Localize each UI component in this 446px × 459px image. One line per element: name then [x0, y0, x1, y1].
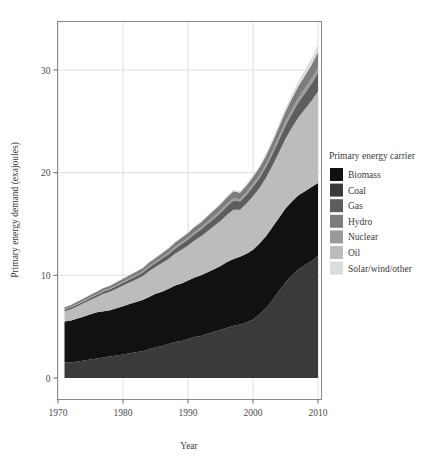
x-tick-label-1990: 1990 [179, 408, 198, 418]
legend-swatch-oil[interactable] [330, 246, 343, 259]
y-tick-label-30: 30 [41, 66, 51, 76]
x-tick-label-2000: 2000 [244, 408, 263, 418]
legend-label-coal: Coal [348, 186, 366, 196]
legend-label-hydro: Hydro [348, 217, 373, 227]
legend-label-nuclear: Nuclear [348, 232, 379, 242]
energy-demand-area-chart: 19701980199020002010 0102030 Year Primar… [0, 0, 446, 459]
x-tick-label-1970: 1970 [49, 408, 68, 418]
y-axis-title: Primary energy demand (exajoules) [10, 142, 21, 278]
legend-label-solar-wind-other: Solar/wind/other [348, 264, 413, 274]
x-axis-title: Year [180, 441, 198, 451]
legend-swatch-coal[interactable] [330, 184, 343, 197]
x-tick-label-1980: 1980 [114, 408, 133, 418]
legend-swatch-solar-wind-other[interactable] [330, 262, 343, 275]
x-tick-label-2010: 2010 [309, 408, 328, 418]
y-tick-label-0: 0 [46, 374, 51, 384]
legend-swatch-gas[interactable] [330, 199, 343, 212]
legend-label-biomass: Biomass [348, 170, 381, 180]
legend-label-gas: Gas [348, 201, 363, 211]
legend-title: Primary energy carrier [329, 151, 416, 161]
legend-swatch-hydro[interactable] [330, 215, 343, 228]
legend-swatch-nuclear[interactable] [330, 230, 343, 243]
y-tick-label-20: 20 [41, 168, 51, 178]
legend-swatch-biomass[interactable] [330, 168, 343, 181]
legend-label-oil: Oil [348, 248, 361, 258]
y-tick-label-10: 10 [41, 271, 51, 281]
